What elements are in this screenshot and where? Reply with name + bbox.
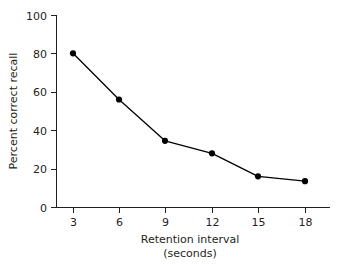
y-tick-label-100: 100 xyxy=(26,10,47,23)
data-point-3 xyxy=(70,50,76,56)
y-tick-label-20: 20 xyxy=(33,163,47,176)
x-tick-label-15: 15 xyxy=(252,216,266,229)
y-tick-label-40: 40 xyxy=(33,125,47,138)
y-tick-label-80: 80 xyxy=(33,48,47,61)
x-tick-label-12: 12 xyxy=(206,216,220,229)
data-point-6 xyxy=(116,96,122,102)
x-axis-title-line1: Retention interval xyxy=(141,233,239,246)
x-tick-label-3: 3 xyxy=(70,216,77,229)
y-axis-ticks xyxy=(51,16,57,208)
x-tick-label-18: 18 xyxy=(299,216,313,229)
x-tick-label-9: 9 xyxy=(162,216,169,229)
x-axis-tick-labels: 3 6 9 12 15 18 xyxy=(70,216,313,229)
data-point-9 xyxy=(162,138,168,144)
y-tick-label-0: 0 xyxy=(40,202,47,215)
y-axis-title: Percent correct recall xyxy=(7,53,20,170)
data-point-15 xyxy=(255,173,261,179)
x-axis-ticks xyxy=(74,208,306,214)
data-markers xyxy=(70,50,308,184)
x-axis-title-line2: (seconds) xyxy=(163,247,217,260)
x-tick-label-6: 6 xyxy=(116,216,123,229)
y-axis-tick-labels: 0 20 40 60 80 100 xyxy=(26,10,47,215)
chart-container: 0 20 40 60 80 100 3 6 9 12 15 18 xyxy=(0,0,339,264)
y-tick-label-60: 60 xyxy=(33,86,47,99)
data-line-percent-correct-recall xyxy=(73,53,305,181)
data-point-18 xyxy=(302,178,308,184)
line-chart: 0 20 40 60 80 100 3 6 9 12 15 18 xyxy=(0,0,339,264)
data-point-12 xyxy=(209,150,215,156)
